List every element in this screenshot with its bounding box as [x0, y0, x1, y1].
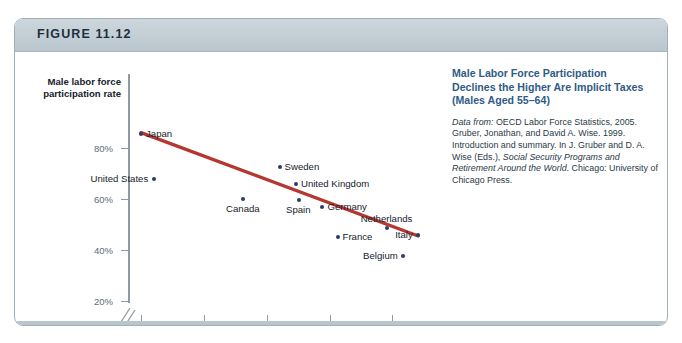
caption-block: Male Labor Force Participation Declines … [452, 67, 660, 186]
figure-panel: FIGURE 11.12 Male labor force participat… [14, 18, 668, 326]
data-label-italy: Italy [395, 229, 413, 240]
panel-bottom-rule [15, 321, 667, 325]
chart-plot-area: Male labor force participation rate 80% … [15, 52, 435, 324]
caption-title-line1: Male Labor Force Participation [452, 67, 607, 79]
data-point-italy [416, 233, 420, 237]
data-point-japan [139, 132, 143, 136]
data-point-netherlands [385, 226, 389, 230]
data-label-sweden: Sweden [285, 161, 320, 172]
data-point-spain [297, 198, 301, 202]
data-label-united-states: United States [91, 173, 149, 184]
data-point-belgium [401, 254, 405, 258]
data-label-japan: Japan [146, 128, 172, 139]
caption-title: Male Labor Force Participation Declines … [452, 67, 660, 108]
data-label-spain: Spain [286, 204, 311, 215]
caption-title-line3: (Males Aged 55–64) [452, 94, 550, 106]
caption-source: Data from: OECD Labor Force Statistics, … [452, 117, 660, 187]
data-point-germany [320, 205, 324, 209]
data-label-belgium: Belgium [363, 250, 398, 261]
data-point-united-states [152, 177, 156, 181]
data-point-france [336, 235, 340, 239]
data-label-netherlands: Netherlands [361, 213, 413, 224]
source-prefix: Data from: [452, 117, 493, 127]
data-label-germany: Germany [327, 201, 366, 212]
data-point-united-kingdom [294, 182, 298, 186]
figure-screenshot: FIGURE 11.12 Male labor force participat… [0, 0, 682, 343]
data-label-united-kingdom: United Kingdom [301, 178, 369, 189]
data-point-canada [241, 197, 245, 201]
data-point-sweden [278, 165, 282, 169]
data-label-france: France [343, 231, 373, 242]
trend-line [15, 52, 435, 324]
caption-title-line2: Declines the Higher Are Implicit Taxes [452, 81, 643, 93]
data-label-canada: Canada [226, 203, 260, 214]
figure-label: FIGURE 11.12 [37, 27, 132, 41]
